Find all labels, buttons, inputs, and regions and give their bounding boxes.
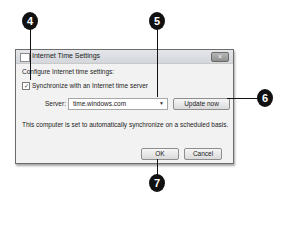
callout-4-line xyxy=(30,28,31,80)
callout-7: 7 xyxy=(149,174,165,192)
dialog-title: Internet Time Settings xyxy=(32,52,100,59)
internet-time-settings-dialog: Internet Time Settings × Configure Inter… xyxy=(15,49,234,164)
callout-4: 4 xyxy=(22,12,38,30)
sync-checkbox[interactable]: ✓ xyxy=(22,82,30,90)
window-icon xyxy=(20,53,30,62)
dialog-content: Configure Internet time settings: ✓ Sync… xyxy=(16,64,233,163)
update-now-button[interactable]: Update now xyxy=(173,98,230,110)
configure-heading: Configure Internet time settings: xyxy=(22,68,114,75)
callout-5: 5 xyxy=(149,12,165,30)
server-label: Server: xyxy=(45,100,66,107)
close-button[interactable]: × xyxy=(211,52,229,62)
title-bar: Internet Time Settings × xyxy=(16,50,233,64)
callout-6: 6 xyxy=(257,89,273,107)
server-value: time.windows.com xyxy=(73,100,126,107)
ok-button[interactable]: OK xyxy=(141,148,179,160)
sync-checkbox-label[interactable]: Synchronize with an Internet time server xyxy=(32,82,148,89)
cancel-button[interactable]: Cancel xyxy=(184,148,222,160)
server-dropdown[interactable]: time.windows.com ▼ xyxy=(68,98,168,110)
status-text: This computer is set to automatically sy… xyxy=(22,121,228,128)
callout-6-line xyxy=(227,98,261,99)
callout-5-line xyxy=(157,28,158,97)
chevron-down-icon[interactable]: ▼ xyxy=(159,100,164,106)
